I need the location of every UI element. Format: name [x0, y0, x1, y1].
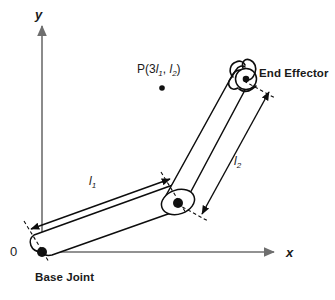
origin-label: 0	[10, 245, 17, 258]
link-1-length-subscript: 1	[92, 181, 96, 190]
diagram-canvas	[0, 0, 335, 300]
wrist-joint-dot	[243, 76, 250, 83]
link-2-length-label: l2	[234, 155, 241, 170]
target-point-dot	[159, 85, 165, 91]
target-point-label: P(3l1, l2)	[137, 63, 181, 78]
target-point-prefix: P(3	[137, 62, 156, 76]
link-2-length-subscript: 2	[237, 161, 241, 170]
link-1-length-label: l1	[89, 175, 96, 190]
end-effector-caption: End Effector	[259, 68, 329, 80]
robot-arm-diagram: y x 0 l1 l2 P(3l1, l2) Base Joint End Ef…	[0, 0, 335, 300]
target-point-suffix: )	[177, 62, 181, 76]
base-joint-dot	[37, 247, 47, 257]
x-axis-label: x	[286, 246, 293, 259]
base-joint-caption: Base Joint	[35, 272, 94, 284]
y-axis-label: y	[35, 8, 42, 21]
